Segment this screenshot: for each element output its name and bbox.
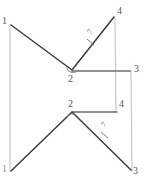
- upper-figure-group: [11, 17, 130, 73]
- connector-guide-group: [10, 18, 132, 172]
- vertex-label-upper-4: 4: [117, 6, 122, 16]
- lower-figure-group: [11, 112, 131, 171]
- guide-line-3-to-3: [131, 70, 132, 172]
- vertex-label-lower-2: 2: [68, 99, 73, 109]
- guide-line-4-to-4: [115, 18, 116, 112]
- vertex-label-lower-3: 3: [133, 166, 138, 176]
- vertex-label-upper-1: 1: [2, 16, 7, 26]
- tick-mark-lower-2-3: [101, 132, 108, 138]
- segment-upper-2-4: [72, 17, 114, 70]
- vertex-label-upper-2: 2: [68, 74, 73, 84]
- segment-lower-2-1: [11, 112, 72, 171]
- tick-mark-upper-2-4: [87, 39, 94, 45]
- vertex-label-lower-4: 4: [119, 99, 124, 109]
- vertex-label-lower-1: 1: [2, 164, 7, 174]
- geometry-svg: [0, 0, 148, 184]
- segment-upper-1-2: [11, 25, 72, 70]
- diagram-canvas: 1 2 4 3 7 2 4 1 3 7: [0, 0, 148, 184]
- vertex-label-upper-3: 3: [134, 64, 139, 74]
